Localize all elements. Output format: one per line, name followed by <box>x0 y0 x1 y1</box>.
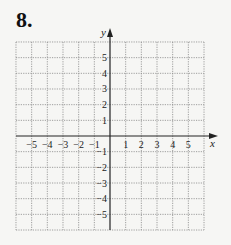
x-tick-label: −2 <box>73 139 84 150</box>
y-tick-label: −2 <box>96 162 107 173</box>
y-tick-label: 4 <box>102 68 107 79</box>
y-tick-label: 2 <box>102 99 107 110</box>
y-tick-label: 3 <box>102 83 107 94</box>
x-tick-label: 2 <box>139 139 144 150</box>
y-axis-label: y <box>100 26 106 38</box>
y-tick-label: −3 <box>96 178 107 189</box>
y-tick-label: −1 <box>96 146 107 157</box>
x-tick-label: −5 <box>26 139 37 150</box>
x-tick-label: −3 <box>58 139 69 150</box>
y-tick-label: −4 <box>96 193 107 204</box>
y-axis-arrow-icon <box>107 28 113 37</box>
coordinate-grid: −5−4−3−2−11234554321−1−2−3−4−5 x y <box>0 0 231 245</box>
axes <box>16 28 218 230</box>
y-tick-label: 1 <box>102 115 107 126</box>
x-tick-label: 1 <box>123 139 128 150</box>
y-tick-label: −5 <box>96 209 107 220</box>
y-tick-label: 5 <box>102 52 107 63</box>
x-tick-label: 5 <box>186 139 191 150</box>
x-tick-label: 4 <box>170 139 175 150</box>
x-tick-label: 3 <box>155 139 160 150</box>
x-tick-label: −4 <box>42 139 53 150</box>
x-axis-label: x <box>209 137 215 149</box>
